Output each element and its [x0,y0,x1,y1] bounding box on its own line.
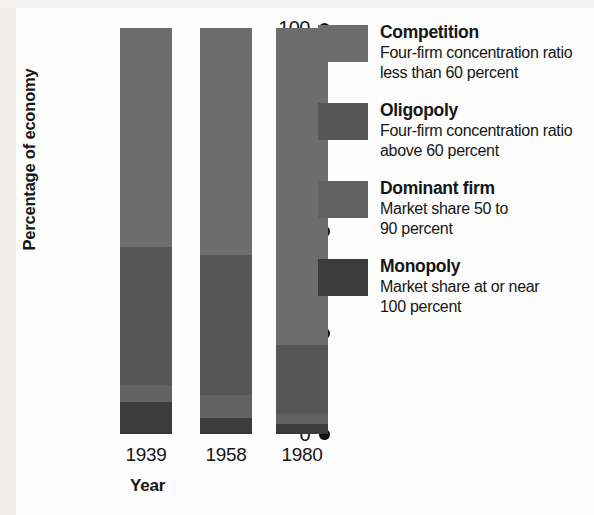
legend-item-dominant-firm: Dominant firmMarket share 50 to 90 perce… [318,178,590,239]
legend-swatch-icon [318,259,368,296]
bar-segment-competition [200,28,252,255]
bar-1958 [200,28,252,434]
bar-segment-monopoly [200,418,252,434]
legend-item-monopoly: MonopolyMarket share at or near 100 perc… [318,256,590,317]
legend-text: MonopolyMarket share at or near 100 perc… [380,256,590,317]
legend-description: Four-firm concentration ratio less than … [380,43,590,83]
legend-title: Competition [380,22,590,43]
x-tick-1980: 1980 [262,444,342,466]
legend-text: OligopolyFour-firm concentration ratio a… [380,100,590,161]
legend-swatch-icon [318,181,368,218]
bar-segment-dominant-firm [200,395,252,417]
bar-segment-dominant-firm [120,385,172,401]
legend-text: CompetitionFour-firm concentration ratio… [380,22,590,83]
x-tick-1939: 1939 [106,444,186,466]
legend-swatch-icon [318,25,368,62]
legend-description: Market share 50 to 90 percent [380,199,590,239]
legend-description: Market share at or near 100 percent [380,277,590,317]
legend-swatch-icon [318,103,368,140]
bar-segment-monopoly [276,424,328,434]
legend-title: Monopoly [380,256,590,277]
y-axis-label: Percentage of economy [20,35,39,285]
legend-title: Oligopoly [380,100,590,121]
chart-figure: Percentage of economy 1007550250 1939195… [0,0,594,515]
legend-text: Dominant firmMarket share 50 to 90 perce… [380,178,590,239]
legend-item-oligopoly: OligopolyFour-firm concentration ratio a… [318,100,590,161]
legend-description: Four-firm concentration ratio above 60 p… [380,121,590,161]
chart-legend: CompetitionFour-firm concentration ratio… [318,22,590,334]
bar-segment-monopoly [120,402,172,434]
bar-segment-oligopoly [120,247,172,385]
bar-segment-oligopoly [200,255,252,395]
plot-area: Percentage of economy 1007550250 1939195… [0,0,330,460]
legend-title: Dominant firm [380,178,590,199]
bar-segment-oligopoly [276,345,328,414]
bar-segment-competition [120,28,172,247]
bar-segment-dominant-firm [276,414,328,424]
x-tick-1958: 1958 [186,444,266,466]
legend-item-competition: CompetitionFour-firm concentration ratio… [318,22,590,83]
bar-1939 [120,28,172,434]
x-axis-label: Year [130,476,165,496]
